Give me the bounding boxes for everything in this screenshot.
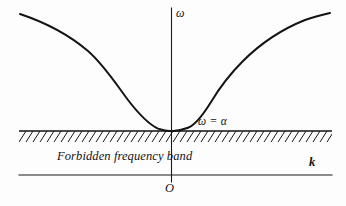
k-axis-label: k xyxy=(309,156,315,169)
figure-canvas xyxy=(0,0,346,206)
dispersion-branch-right xyxy=(172,13,331,131)
cutoff-frequency-label: ω = α xyxy=(198,116,227,128)
forbidden-band-caption: Forbidden frequency band xyxy=(57,150,192,163)
omega-axis-label: ω xyxy=(176,7,184,19)
dispersion-branch-left xyxy=(20,14,172,131)
dispersion-diagram: ω ω = α Forbidden frequency band k O xyxy=(0,0,346,206)
forbidden-band-hatching xyxy=(19,131,341,142)
origin-label: O xyxy=(165,182,174,195)
